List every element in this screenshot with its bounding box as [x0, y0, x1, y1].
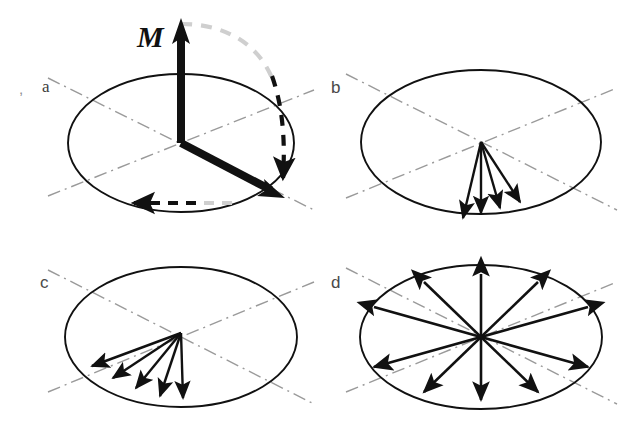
panel-a: M a , [19, 18, 314, 212]
panel-a-caption-artifact: , [19, 80, 23, 97]
panel-c: c [40, 267, 314, 407]
panel-b-fan-arrow-4 [481, 142, 520, 202]
figure-root: M a , b [0, 0, 639, 432]
panel-d-label: d [331, 273, 340, 292]
panel-c-fan-arrow-1 [181, 333, 183, 398]
panel-b-domain-vector-fan [463, 142, 520, 218]
panel-b-label: b [331, 78, 340, 97]
figure-canvas: M a , b [0, 0, 639, 432]
panel-a-precession-arc-faded [181, 24, 275, 86]
panel-b-fan-arrow-3 [481, 142, 500, 208]
magnetization-label: M [136, 20, 165, 53]
panel-a-label: a [42, 77, 50, 96]
panel-c-domain-vector-fan [92, 333, 183, 398]
panel-b: b [331, 70, 617, 218]
panel-a-precession-arc [272, 76, 284, 178]
panel-c-label: c [40, 273, 49, 292]
panel-a-magnetization-vector-in-plane [181, 143, 271, 190]
panel-d-isotropic-vector-star [374, 274, 588, 400]
panel-c-fan-arrow-2 [160, 333, 181, 396]
panel-d: d [331, 265, 617, 409]
panel-b-fan-arrow-1 [463, 142, 481, 218]
